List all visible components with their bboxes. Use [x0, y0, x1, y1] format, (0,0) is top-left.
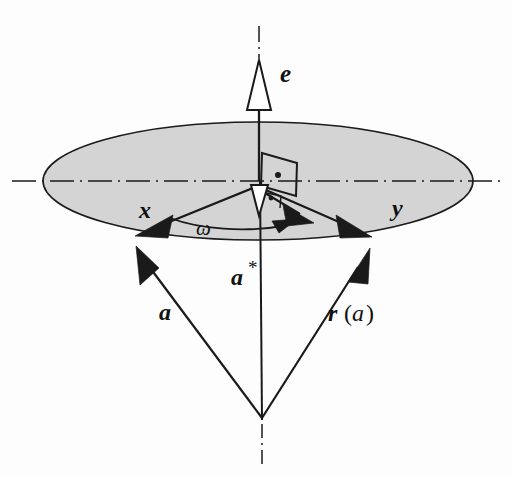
vector-a-shaft [148, 265, 262, 418]
label-projection-a-star: a * [231, 257, 258, 290]
label-vector-y: y [389, 195, 403, 221]
label-vector-ra: r ( a ) [328, 300, 374, 326]
label-vector-a: a [159, 299, 171, 325]
label-projection-star: * [248, 257, 258, 278]
vector-ra-shaft [262, 267, 358, 418]
vector-ra-arrowhead [348, 248, 370, 284]
label-projection-a: a [231, 264, 243, 290]
label-vector-r: r [328, 300, 338, 326]
axis-e-arrowhead [247, 60, 271, 110]
label-angle-omega: ω [196, 216, 211, 240]
label-vector-ra-open-paren: ( [344, 300, 352, 326]
vector-rotation-diagram: e x y ω a * a r ( a ) [0, 0, 512, 477]
right-angle-marker-dot [275, 172, 281, 178]
label-vector-ra-close-paren: ) [366, 300, 374, 326]
label-axis-e: e [280, 60, 291, 87]
label-vector-ra-arg: a [352, 300, 364, 326]
label-vector-x: x [138, 197, 151, 223]
figure-root: e x y ω a * a r ( a ) [0, 0, 512, 477]
vector-a-arrowhead [136, 246, 159, 285]
